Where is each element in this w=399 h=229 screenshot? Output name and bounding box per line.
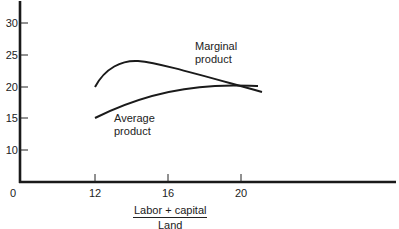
marginal-label-line1: Marginal bbox=[195, 40, 237, 53]
x-axis-title-denominator: Land bbox=[133, 218, 207, 229]
y-tick-label-30: 30 bbox=[2, 18, 18, 29]
x-axis-title: Labor + capital Land bbox=[133, 204, 207, 229]
marginal-label-line2: product bbox=[195, 53, 237, 66]
y-tick-label-10: 10 bbox=[2, 145, 18, 156]
marginal-product-label: Marginal product bbox=[195, 40, 237, 66]
chart-canvas bbox=[0, 0, 399, 229]
average-label-line2: product bbox=[114, 125, 155, 138]
average-product-label: Average product bbox=[114, 112, 155, 138]
x-axis-title-numerator: Labor + capital bbox=[133, 204, 207, 218]
y-tick-label-20: 20 bbox=[2, 82, 18, 93]
x-tick-label-20: 20 bbox=[231, 188, 251, 199]
y-tick-label-15: 15 bbox=[2, 113, 18, 124]
x-tick-label-12: 12 bbox=[85, 188, 105, 199]
average-label-line1: Average bbox=[114, 112, 155, 125]
x-tick-label-0: 0 bbox=[3, 188, 23, 199]
y-tick-label-25: 25 bbox=[2, 50, 18, 61]
x-tick-label-16: 16 bbox=[158, 188, 178, 199]
